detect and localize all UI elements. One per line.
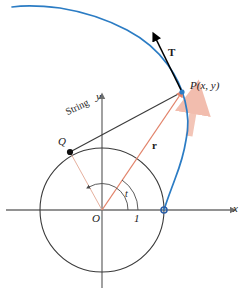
radius-vector-label: r xyxy=(152,140,157,151)
unit-tick-label: 1 xyxy=(134,213,140,224)
point-Q-label: Q xyxy=(58,136,66,147)
figure-canvas xyxy=(0,0,246,303)
y-axis-label: y xyxy=(96,91,101,102)
x-axis-label: x xyxy=(233,203,238,214)
point-P-label: P(x, y) xyxy=(190,80,219,91)
point-P-marker xyxy=(179,89,184,94)
radius-OQ xyxy=(70,152,102,210)
involute-curve xyxy=(12,6,188,210)
motion-direction-arrow xyxy=(189,107,194,136)
origin-label: O xyxy=(92,213,100,224)
angle-t-label: t xyxy=(125,189,128,199)
involute-figure: P(x, y) T Q O 1 x y t r String xyxy=(0,0,246,303)
point-Q-marker xyxy=(67,149,73,155)
tangent-vector-label: T xyxy=(168,47,175,58)
radius-vector-r xyxy=(102,95,180,210)
